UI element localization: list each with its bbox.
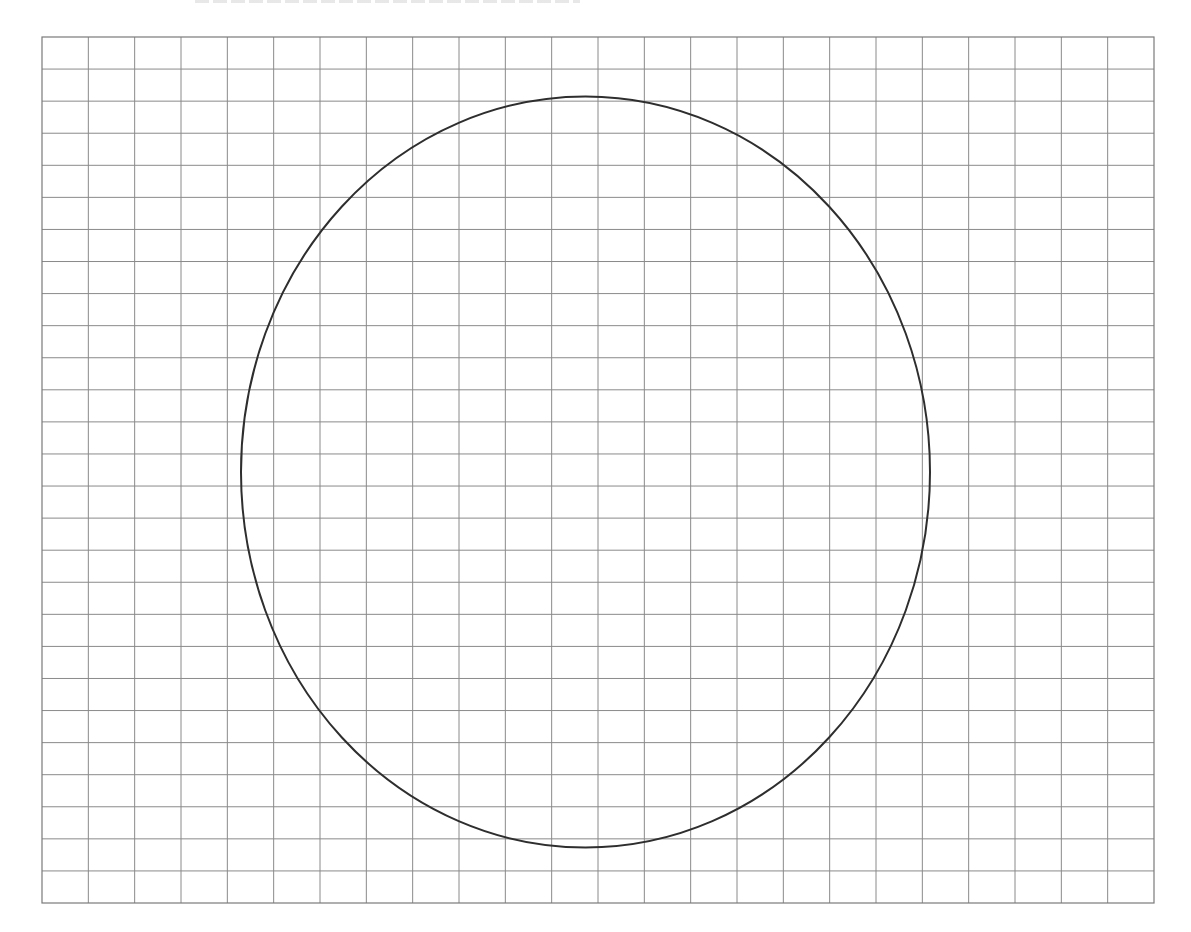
ellipse-shape [241, 97, 930, 848]
grid-diagram [0, 0, 1191, 932]
grid-lines [42, 37, 1154, 903]
